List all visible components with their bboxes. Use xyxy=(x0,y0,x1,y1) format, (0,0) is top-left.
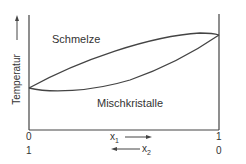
tick-left-x2: 1 xyxy=(26,145,32,156)
tick-right-x2: 0 xyxy=(216,145,222,156)
x1-arrowhead-icon xyxy=(146,135,152,139)
region-label-mischkristalle: Mischkristalle xyxy=(97,97,163,109)
x1-subscript: 1 xyxy=(115,137,119,144)
x2-arrowhead-icon xyxy=(111,147,117,151)
x2-subscript: 2 xyxy=(147,149,151,156)
temperature-arrowhead-icon xyxy=(15,15,19,21)
phase-diagram-plot xyxy=(0,0,246,164)
region-label-schmelze: Schmelze xyxy=(52,33,100,45)
x2-label: x2 xyxy=(142,143,151,156)
x1-label: x1 xyxy=(110,131,119,144)
y-axis-label: Temperatur xyxy=(11,50,22,110)
tick-right-x1: 1 xyxy=(216,131,222,142)
tick-left-x1: 0 xyxy=(26,131,32,142)
